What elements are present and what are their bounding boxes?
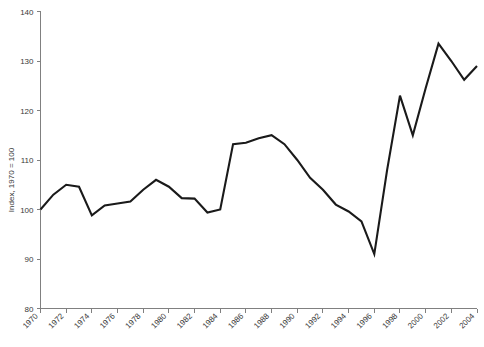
x-axis-ticks: 1970197219741976197819801982198419861988…: [21, 309, 477, 331]
x-tick-label: 1970: [21, 311, 40, 330]
x-tick-label: 1980: [149, 311, 168, 330]
y-tick-label: 130: [20, 57, 34, 66]
x-tick-label: 1982: [175, 311, 194, 330]
x-tick-label: 1972: [47, 311, 66, 330]
x-tick-label: 1992: [303, 311, 322, 330]
y-tick-label: 140: [20, 8, 34, 17]
x-tick-label: 1974: [72, 311, 91, 330]
x-tick-label: 2004: [457, 311, 476, 330]
x-tick-label: 1994: [329, 311, 348, 330]
chart-canvas: 8090100110120130140 19701972197419761978…: [0, 0, 484, 347]
x-tick-label: 1990: [278, 311, 297, 330]
y-tick-label: 90: [25, 255, 34, 264]
x-tick-label: 1988: [252, 311, 271, 330]
data-series-line: [41, 44, 478, 254]
y-axis-label: Index, 1970 = 100: [7, 147, 16, 212]
y-tick-label: 100: [20, 206, 34, 215]
x-tick-label: 1998: [380, 311, 399, 330]
x-tick-label: 2002: [432, 311, 451, 330]
x-tick-label: 1976: [98, 311, 117, 330]
line-chart: 8090100110120130140 19701972197419761978…: [0, 0, 484, 347]
x-tick-label: 1984: [201, 311, 220, 330]
y-tick-label: 110: [21, 156, 34, 165]
x-tick-label: 2000: [406, 311, 425, 330]
y-axis-ticks: 8090100110120130140: [20, 8, 40, 314]
y-tick-label: 120: [20, 107, 34, 116]
x-tick-label: 1978: [124, 311, 143, 330]
x-tick-label: 1986: [226, 311, 245, 330]
x-tick-label: 1996: [355, 311, 374, 330]
